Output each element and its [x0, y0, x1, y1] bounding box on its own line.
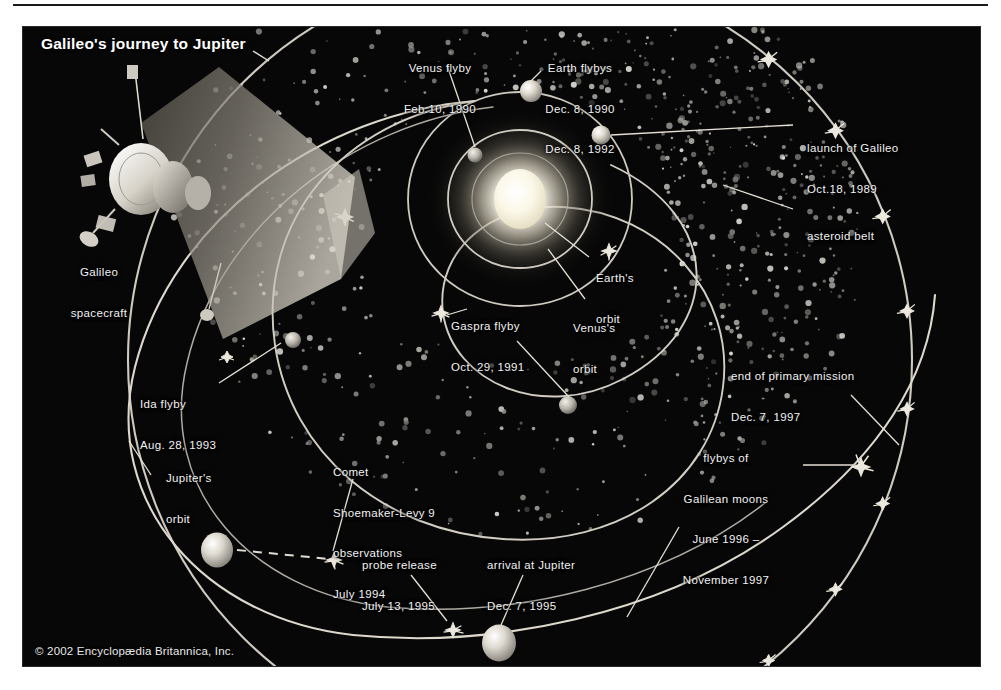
earth-planet-top [520, 80, 542, 102]
planet-lower [559, 396, 577, 414]
boom-tip-plate [127, 65, 138, 79]
galileo-trajectory-figure: Galileo's journey to Jupiter Galileo spa… [22, 26, 981, 667]
copyright-notice: © 2002 Encyclopædia Britannica, Inc. [35, 645, 234, 657]
page-top-rule [13, 4, 988, 6]
jupiter-planet-left [201, 533, 233, 568]
ida-asteroid [285, 332, 301, 348]
instrument-block-mid [80, 174, 95, 187]
launch-position-marker [592, 126, 611, 145]
page-title: Galileo's journey to Jupiter [41, 35, 246, 53]
page-root: Galileo's journey to Jupiter Galileo spa… [0, 0, 1001, 690]
descent-probe [200, 309, 214, 321]
venus-planet [468, 148, 483, 163]
trajectory-illustration [23, 27, 980, 666]
sun-disc [494, 169, 546, 229]
propulsion-module [185, 176, 211, 210]
jupiter-planet-arrival [482, 625, 516, 662]
